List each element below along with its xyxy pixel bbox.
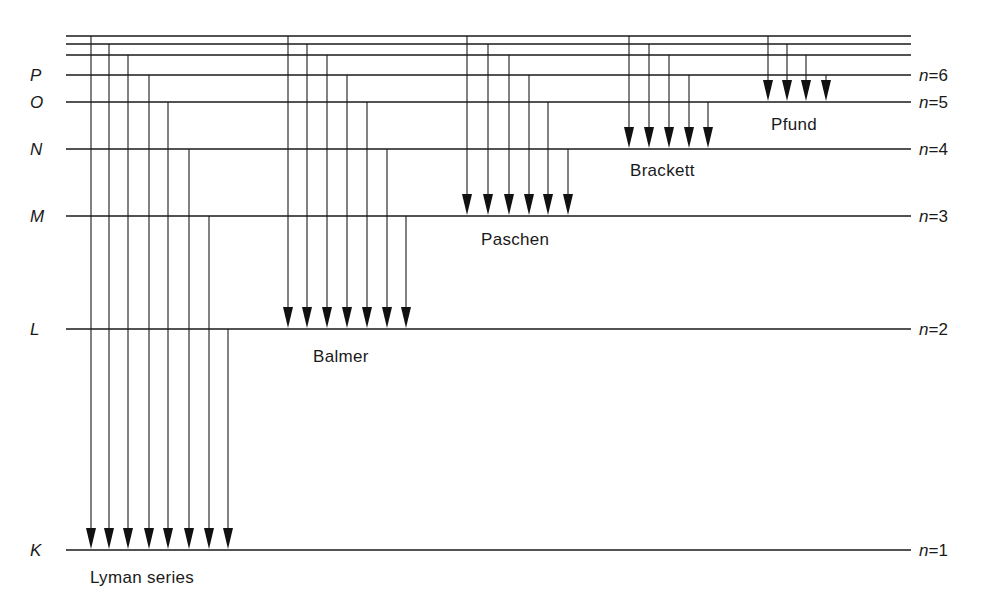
shell-label-L: L — [30, 320, 39, 339]
quantum-number-label-n2: n=2 — [919, 320, 948, 339]
shell-label-M: M — [30, 207, 45, 226]
arrowhead-icon — [184, 528, 194, 549]
arrowhead-icon — [362, 307, 372, 328]
arrowhead-icon — [462, 194, 472, 215]
arrowhead-icon — [504, 194, 514, 215]
arrowhead-icon — [763, 80, 773, 101]
arrowhead-icon — [322, 307, 332, 328]
series-balmer — [283, 36, 411, 328]
arrowhead-icon — [302, 307, 312, 328]
arrowhead-icon — [223, 528, 233, 549]
shell-label-P: P — [30, 66, 42, 85]
arrowhead-icon — [624, 127, 634, 148]
arrowhead-icon — [163, 528, 173, 549]
arrowhead-icon — [483, 194, 493, 215]
arrowhead-icon — [821, 80, 831, 101]
arrowhead-icon — [703, 127, 713, 148]
series-label-lyman: Lyman series — [90, 568, 194, 587]
series-label-pfund: Pfund — [771, 115, 817, 134]
arrowhead-icon — [123, 528, 133, 549]
arrowhead-icon — [782, 80, 792, 101]
arrowhead-icon — [86, 528, 96, 549]
arrowhead-icon — [563, 194, 573, 215]
series-lyman — [86, 36, 233, 549]
quantum-number-label-n1: n=1 — [919, 541, 948, 560]
arrowhead-icon — [204, 528, 214, 549]
arrowhead-icon — [524, 194, 534, 215]
arrowhead-icon — [144, 528, 154, 549]
arrowhead-icon — [283, 307, 293, 328]
arrowhead-icon — [684, 127, 694, 148]
arrowhead-icon — [342, 307, 352, 328]
quantum-number-label-n5: n=5 — [919, 93, 948, 112]
arrowhead-icon — [401, 307, 411, 328]
shell-label-N: N — [30, 140, 43, 159]
series-paschen — [462, 36, 573, 215]
energy-level-diagram: Kn=1Ln=2Mn=3Nn=4On=5Pn=6Lyman seriesBalm… — [0, 0, 989, 602]
series-pfund — [763, 36, 831, 101]
shell-label-O: O — [30, 93, 43, 112]
series-label-brackett: Brackett — [630, 161, 695, 180]
series-label-paschen: Paschen — [481, 230, 549, 249]
spectral-transitions — [86, 36, 831, 549]
arrowhead-icon — [382, 307, 392, 328]
arrowhead-icon — [543, 194, 553, 215]
arrowhead-icon — [664, 127, 674, 148]
quantum-number-label-n3: n=3 — [919, 207, 948, 226]
arrowhead-icon — [644, 127, 654, 148]
arrowhead-icon — [104, 528, 114, 549]
shell-label-K: K — [30, 541, 42, 560]
quantum-number-label-n4: n=4 — [919, 140, 948, 159]
series-label-balmer: Balmer — [313, 347, 369, 366]
quantum-number-label-n6: n=6 — [919, 66, 948, 85]
series-brackett — [624, 36, 713, 148]
arrowhead-icon — [801, 80, 811, 101]
